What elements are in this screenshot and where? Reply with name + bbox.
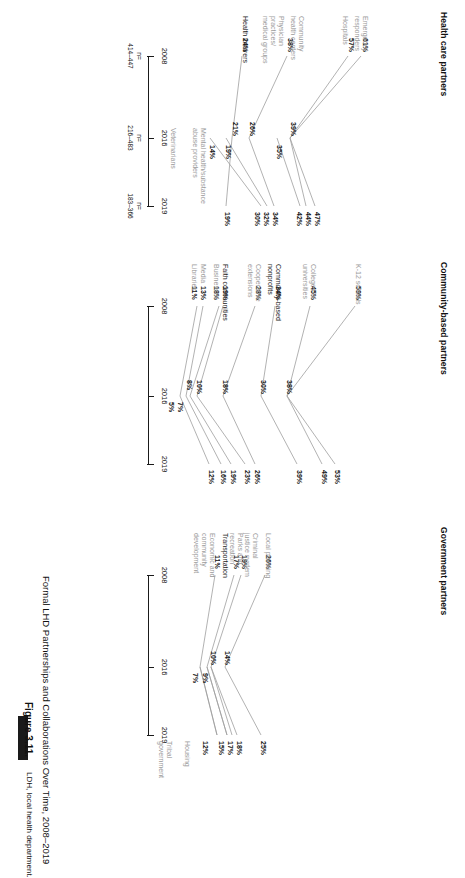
value-label: 39% — [290, 122, 297, 136]
series-label-transportation: Transportation — [221, 533, 229, 578]
panel-government-partners: Government partners 26% 19% 17% 11% 14% … — [0, 515, 465, 791]
series-label-veterinarians: Veterinarians — [169, 128, 177, 169]
series-label-parks-recreation: Parks and recreation — [228, 533, 244, 565]
axis-tick-2019 — [147, 735, 154, 736]
value-label: 23% — [244, 470, 251, 484]
sample-size-n-label-2019: n= — [136, 202, 143, 209]
value-label: 39% — [296, 470, 303, 484]
value-label: 42% — [296, 212, 303, 226]
sample-size-2019: 183–366 — [127, 193, 134, 218]
axis-tick-2016 — [149, 138, 154, 139]
axis-tick-2008 — [147, 575, 154, 576]
series-label-community-health-centers: Community health centers — [289, 16, 305, 60]
value-label: 8% — [186, 380, 193, 390]
panel-community-based-partners: Community-based partners 59% 45% 34% 28%… — [0, 250, 465, 515]
x-axis-government — [148, 575, 149, 735]
axis-year-2019: 2019 — [160, 727, 169, 744]
sample-size-2008: 414–447 — [127, 43, 134, 68]
series-label-emergency-responders: Emergency responders — [353, 16, 369, 51]
value-label: 14% — [209, 145, 216, 159]
series-label-businesses: Businesses — [212, 264, 220, 300]
series-label-colleges-universities: Colleges or universities — [301, 264, 317, 299]
sample-size-n-label-2008: n= — [136, 52, 143, 59]
value-label: 21% — [232, 122, 239, 136]
value-label: 10% — [196, 380, 203, 394]
axis-tick-2008 — [147, 306, 154, 307]
value-label: 14% — [224, 651, 231, 665]
axis-year-2016: 2016 — [160, 659, 169, 676]
series-label-hospitals: Hospitals — [341, 16, 349, 45]
sample-size-n-label-2016: n= — [136, 134, 143, 141]
value-label: 34% — [272, 212, 279, 226]
series-label-physician-practices: Physician practices/ medical groups — [261, 16, 285, 63]
axis-year-2019: 2019 — [160, 456, 169, 473]
value-label: 26% — [249, 122, 256, 136]
value-label: 12% — [208, 470, 215, 484]
axis-year-2008: 2008 — [160, 567, 169, 584]
series-label-criminal-justice: Criminal justice system — [243, 533, 259, 577]
series-label-faith-communities: Faith communities — [221, 264, 229, 321]
value-label: 26% — [254, 470, 261, 484]
value-label: 53% — [334, 470, 341, 484]
x-axis-health — [148, 56, 149, 206]
x-axis-community — [148, 306, 149, 464]
axis-tick-2016 — [149, 667, 154, 668]
value-label: 19% — [230, 470, 237, 484]
value-label: 18% — [222, 380, 229, 394]
series-label-community-nonprofits: Community-based nonprofits — [266, 264, 282, 321]
sample-size-2016: 216–483 — [127, 125, 134, 150]
value-label: 25% — [260, 741, 267, 755]
value-label: 13% — [200, 286, 207, 300]
value-label: 7% — [177, 402, 184, 412]
value-label: 19% — [224, 212, 231, 226]
series-label-health-insurers: Health insurers — [241, 16, 249, 63]
axis-tick-2016 — [149, 396, 154, 397]
panel-health-care-partners: Health care partners 61% 57% 38% 24% 39%… — [0, 0, 465, 250]
axis-year-2016: 2016 — [160, 388, 169, 405]
value-label: 18% — [236, 741, 243, 755]
value-label: 38% — [286, 380, 293, 394]
value-label: 10% — [210, 651, 217, 665]
axis-year-2008: 2008 — [160, 48, 169, 65]
series-label-local-planning: Local planning — [264, 533, 272, 578]
value-label: 47% — [314, 212, 321, 226]
value-label: 7% — [192, 673, 199, 683]
series-label-media: Media — [199, 264, 207, 283]
value-label: 30% — [254, 212, 261, 226]
series-label-housing: Housing — [183, 741, 191, 767]
axis-tick-2019 — [147, 464, 154, 465]
value-label: 49% — [321, 470, 328, 484]
series-label-cooperative-extensions: Cooperative extensions — [246, 264, 262, 302]
series-label-mental-health: Mental health/substance abuse providers — [191, 128, 207, 204]
value-label: 16% — [220, 470, 227, 484]
value-label: 32% — [263, 212, 270, 226]
value-label: 9% — [202, 673, 209, 683]
value-label: 19% — [225, 145, 232, 159]
axis-year-2016: 2016 — [160, 130, 169, 147]
axis-tick-2008 — [147, 56, 154, 57]
value-label: 44% — [305, 212, 312, 226]
axis-year-2019: 2019 — [160, 198, 169, 215]
axis-year-2008: 2008 — [160, 298, 169, 315]
axis-tick-2019 — [147, 206, 154, 207]
value-label: 12% — [202, 741, 209, 755]
series-label-economic-development: Economic and community development — [192, 533, 216, 577]
series-label-libraries: Libraries — [190, 264, 198, 291]
value-label: 15% — [218, 741, 225, 755]
series-label-tribal-government: Tribal government — [157, 741, 173, 778]
series-label-k12-schools: K-12 schools — [354, 264, 362, 304]
value-label: 35% — [276, 145, 283, 159]
value-label: 5% — [168, 402, 175, 412]
value-label: 17% — [227, 741, 234, 755]
value-label: 30% — [260, 380, 267, 394]
